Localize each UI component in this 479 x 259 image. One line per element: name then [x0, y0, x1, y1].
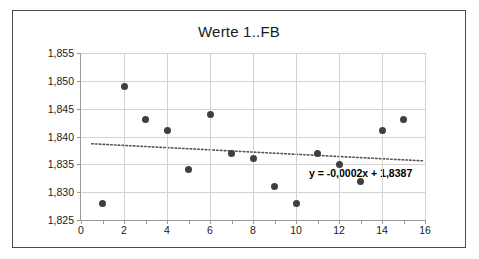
y-tick-mark [77, 81, 81, 82]
data-point [379, 127, 386, 134]
gridline-vertical [339, 53, 340, 220]
y-tick-mark [77, 192, 81, 193]
gridline-vertical [296, 53, 297, 220]
x-axis-tick-label: 12 [333, 224, 345, 236]
x-tick-mark [81, 220, 82, 224]
x-tick-mark [318, 220, 319, 224]
data-point [293, 200, 300, 207]
x-tick-mark [339, 220, 340, 224]
x-tick-mark [146, 220, 147, 224]
data-point [314, 150, 321, 157]
x-axis-tick-label: 10 [290, 224, 302, 236]
x-tick-mark [275, 220, 276, 224]
x-axis-tick-label: 6 [207, 224, 213, 236]
x-tick-mark [382, 220, 383, 224]
data-point [336, 161, 343, 168]
x-tick-mark [124, 220, 125, 224]
data-point [271, 183, 278, 190]
data-point [357, 178, 364, 185]
x-axis-tick-label: 14 [376, 224, 388, 236]
x-tick-mark [232, 220, 233, 224]
x-tick-mark [189, 220, 190, 224]
x-axis-tick-label: 4 [164, 224, 170, 236]
y-tick-mark [77, 53, 81, 54]
x-tick-mark [296, 220, 297, 224]
gridline-vertical [253, 53, 254, 220]
y-axis-tick-label: 1,840 [48, 131, 74, 143]
x-tick-mark [210, 220, 211, 224]
x-axis-tick-label: 0 [78, 224, 84, 236]
plot-area: y = -0,0002x + 1,8387 1,8251,8301,8351,8… [80, 53, 425, 221]
x-tick-mark [361, 220, 362, 224]
x-tick-mark [404, 220, 405, 224]
data-point [207, 111, 214, 118]
y-tick-mark [77, 109, 81, 110]
chart-frame: Werte 1..FB y = -0,0002x + 1,8387 1,8251… [12, 10, 466, 248]
data-point [121, 83, 128, 90]
data-point [228, 150, 235, 157]
x-tick-mark [253, 220, 254, 224]
x-axis-tick-label: 8 [250, 224, 256, 236]
x-tick-mark [103, 220, 104, 224]
data-point [142, 116, 149, 123]
data-point [400, 116, 407, 123]
y-axis-tick-label: 1,850 [48, 75, 74, 87]
y-axis-tick-label: 1,845 [48, 103, 74, 115]
y-tick-mark [77, 137, 81, 138]
x-axis-tick-label: 16 [419, 224, 431, 236]
gridline-vertical [124, 53, 125, 220]
gridline-vertical [167, 53, 168, 220]
gridline-vertical [382, 53, 383, 220]
chart-title: Werte 1..FB [13, 23, 465, 40]
data-point [185, 166, 192, 173]
y-axis-tick-label: 1,825 [48, 214, 74, 226]
trendline-equation-label: y = -0,0002x + 1,8387 [309, 167, 412, 179]
x-tick-mark [167, 220, 168, 224]
data-point [164, 127, 171, 134]
y-axis-tick-label: 1,830 [48, 186, 74, 198]
gridline-vertical [425, 53, 426, 220]
y-tick-mark [77, 164, 81, 165]
y-axis-tick-label: 1,855 [48, 47, 74, 59]
x-tick-mark [425, 220, 426, 224]
data-point [250, 155, 257, 162]
gridline-vertical [210, 53, 211, 220]
x-axis-tick-label: 2 [121, 224, 127, 236]
y-axis-tick-label: 1,835 [48, 158, 74, 170]
data-point [99, 200, 106, 207]
